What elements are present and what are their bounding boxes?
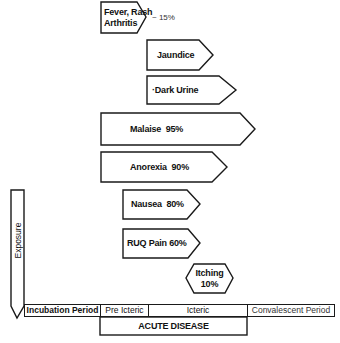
period-convalescent: Convalescent Period <box>247 304 335 317</box>
ruq-pain-label: RUQ Pain 60% <box>127 238 187 248</box>
period-incubation: Incubation Period <box>24 304 101 317</box>
fever-label-line2: Arthritis <box>104 18 137 28</box>
acute-disease-label: ACUTE DISEASE <box>100 321 247 331</box>
fever-label-line1: Fever, Rash <box>104 7 152 17</box>
period-pre-icteric: Pre Icteric <box>100 304 149 317</box>
period-icteric: Icteric <box>148 304 248 317</box>
fever-annotation: ~ 15% <box>152 13 175 23</box>
anorexia-label: Anorexia 90% <box>130 162 189 172</box>
itching-label-line1: Itching <box>186 268 233 278</box>
exposure-label: Exposure <box>13 232 23 259</box>
dark-urine-label: ·Dark Urine <box>152 85 198 95</box>
itching-label-line2: 10% <box>186 279 233 289</box>
jaundice-label: Jaundice <box>157 50 194 60</box>
nausea-label: Nausea 80% <box>131 199 184 209</box>
malaise-label: Malaise 95% <box>130 124 183 134</box>
